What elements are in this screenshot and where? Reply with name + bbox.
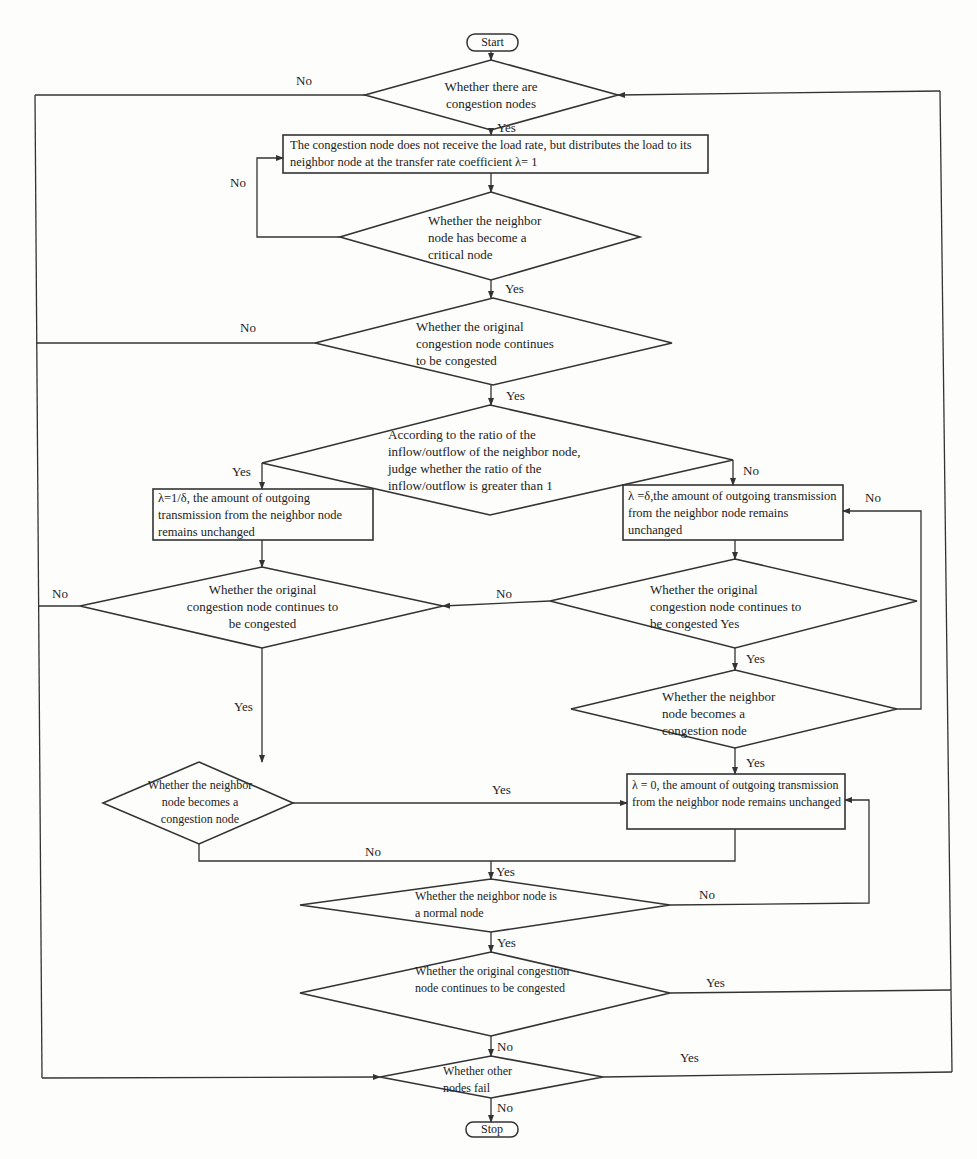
edge-label-merge-yes: Yes xyxy=(496,864,515,880)
process-p3-text: λ =δ,the amount of outgoing transmission… xyxy=(628,488,840,539)
edge-label-d2-no: No xyxy=(230,175,246,191)
decision-d6-text: Whether the original congestion node con… xyxy=(650,581,810,632)
edge-label-d1-yes: Yes xyxy=(497,120,516,136)
edge-label-d10-yes: Yes xyxy=(706,975,725,991)
edge-label-d9-yes: Yes xyxy=(497,935,516,951)
edge-label-d10-no: No xyxy=(497,1039,513,1055)
decision-d8-text: Whether the neighbor node becomes a cong… xyxy=(145,777,255,828)
stop-terminal: Stop xyxy=(466,1121,518,1137)
edge-label-d2-yes: Yes xyxy=(505,281,524,297)
start-terminal: Start xyxy=(467,34,518,50)
edge-label-d5-no: No xyxy=(52,586,68,602)
process-p4-text: λ = 0, the amount of outgoing transmissi… xyxy=(632,777,844,811)
decision-d1-text: Whether there are congestion nodes xyxy=(420,78,562,112)
decision-d9-text: Whether the neighbor node is a normal no… xyxy=(415,888,565,922)
flowchart-canvas: Start Stop Whether there are congestion … xyxy=(0,0,977,1159)
decision-d2-text: Whether the neighbor node has become a c… xyxy=(428,212,558,263)
process-p1-text: The congestion node does not receive the… xyxy=(290,137,705,171)
process-p2-text: λ=1/δ, the amount of outgoing transmissi… xyxy=(158,490,370,541)
edge-label-d9-no: No xyxy=(699,887,715,903)
decision-d4-text: According to the ratio of the inflow/out… xyxy=(388,426,593,494)
edge-label-d4-yes: Yes xyxy=(232,464,251,480)
edge-label-d8-yes: Yes xyxy=(492,782,511,798)
decision-d7-text: Whether the neighbor node becomes a cong… xyxy=(662,688,792,739)
edge-label-d7-yes: Yes xyxy=(746,755,765,771)
decision-d10-text: Whether the original congestion node con… xyxy=(415,963,575,997)
edge-label-d8-no: No xyxy=(365,844,381,860)
edge-label-d11-yes: Yes xyxy=(680,1050,699,1066)
edge-label-d1-no: No xyxy=(296,73,312,89)
edge-label-d4-no: No xyxy=(743,463,759,479)
edge-label-d11-no: No xyxy=(497,1100,513,1116)
edge-label-d3-no: No xyxy=(240,320,256,336)
decision-d3-text: Whether the original congestion node con… xyxy=(416,318,566,369)
decision-d5-text: Whether the original congestion node con… xyxy=(180,581,345,632)
decision-d11-text: Whether other nodes fail xyxy=(443,1063,523,1097)
edge-label-d6-no: No xyxy=(496,586,512,602)
edge-label-d3-yes: Yes xyxy=(506,388,525,404)
edge-label-d6-yes: Yes xyxy=(746,651,765,667)
edge-label-d5-yes: Yes xyxy=(234,699,253,715)
edge-label-d7-no: No xyxy=(865,490,881,506)
